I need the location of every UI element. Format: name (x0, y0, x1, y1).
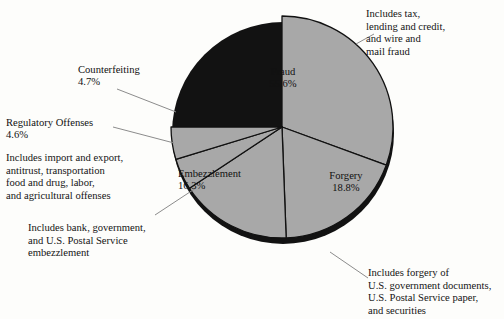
leader-line-forgery (330, 252, 368, 278)
slice-label-fraud-value: 55.6% (238, 78, 328, 90)
slice-label-regulatory-offenses-name: Regulatory Offenses (6, 117, 93, 129)
slice-label-regulatory-offenses-value: 4.6% (6, 129, 93, 141)
slice-label-fraud-name: Fraud (238, 66, 328, 78)
leader-line-regulatory-offenses (113, 127, 174, 143)
slice-label-forgery-value: 18.8% (310, 182, 382, 194)
pie-slices (171, 16, 393, 238)
pie-chart-figure: Fraud 55.6% Forgery 18.8% Embezzlement 1… (0, 0, 504, 319)
annotation-forgery: Includes forgery of U.S. government docu… (368, 267, 491, 317)
slice-label-counterfeiting-value: 4.7% (78, 76, 140, 88)
slice-label-counterfeiting-name: Counterfeiting (78, 64, 140, 76)
slice-label-embezzlement-value: 16.3% (178, 180, 290, 192)
slice-label-embezzlement: Embezzlement 16.3% (178, 168, 290, 193)
slice-label-forgery: Forgery 18.8% (310, 170, 382, 195)
leader-line-counterfeiting (117, 89, 176, 112)
slice-label-fraud: Fraud 55.6% (238, 66, 328, 91)
annotation-fraud: Includes tax, lending and credit, and wi… (366, 8, 445, 58)
slice-label-regulatory-offenses: Regulatory Offenses 4.6% (6, 117, 93, 142)
slice-label-embezzlement-name: Embezzlement (178, 168, 290, 180)
slice-label-forgery-name: Forgery (310, 170, 382, 182)
slice-label-counterfeiting: Counterfeiting 4.7% (78, 64, 140, 89)
annotation-regulatory-offenses: Includes import and export, antitrust, t… (6, 152, 123, 202)
annotation-embezzlement: Includes bank, government, and U.S. Post… (28, 222, 146, 260)
